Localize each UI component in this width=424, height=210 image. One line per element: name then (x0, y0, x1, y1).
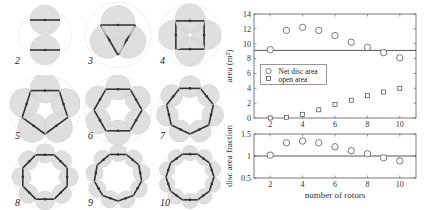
open-area-marker (349, 98, 353, 102)
open-area-marker (317, 108, 321, 112)
open-area-marker (398, 86, 402, 90)
open-area-marker (333, 103, 337, 107)
open-area-marker (268, 116, 272, 120)
rotor-disc-icon (189, 120, 211, 142)
area-chart-svg: 24681002468101214area (m²)Net disc areao… (222, 0, 424, 130)
open-area-marker (365, 94, 369, 98)
y-tick-label: 1.5 (241, 130, 251, 139)
disc-fraction-chart-svg: 2468100.511.5disc area fractionnumber of… (222, 126, 424, 210)
disc-area-marker (332, 32, 338, 38)
area-chart: 24681002468101214area (m²)Net disc areao… (222, 0, 424, 130)
disc-area-marker (316, 140, 322, 146)
y-tick-label: 6 (247, 69, 251, 78)
rotor-disc-icon (52, 151, 71, 170)
y-tick-label: 0.5 (241, 174, 251, 183)
rotor-disc-icon (179, 76, 201, 98)
y-tick-label: 14 (243, 10, 251, 19)
rotor-diagram-2 (10, 0, 80, 70)
rotor-disc-icon (52, 184, 71, 203)
open-area-marker (301, 112, 305, 116)
y-axis-label: disc area fraction (224, 125, 234, 187)
x-tick-label: 6 (333, 180, 337, 189)
y-tick-label: 12 (243, 25, 251, 34)
y-tick-label: 8 (247, 54, 251, 63)
disc-area-marker (364, 44, 370, 50)
rotor-disc-icon (43, 113, 73, 143)
legend: Net disc areaopen area (260, 65, 326, 85)
disc-area-marker (348, 39, 354, 45)
y-tick-label: 10 (243, 40, 251, 49)
rotor-diagram-5 (10, 75, 80, 145)
rotor-disc-icon (12, 167, 31, 186)
rotor-count-label: 4 (160, 55, 165, 66)
rotor-count-label: 5 (15, 130, 20, 141)
rotor-disc-icon (59, 167, 78, 186)
disc-area-marker (283, 140, 289, 146)
rotor-disc-icon (30, 75, 60, 103)
disc-area-marker (267, 46, 273, 52)
rotor-count-label: 7 (160, 130, 165, 141)
disc-area-marker (364, 151, 370, 157)
legend-open-area: open area (278, 75, 308, 84)
disc-area-marker (380, 155, 386, 161)
rotor-disc-icon (101, 5, 135, 39)
disc-area-marker (332, 144, 338, 150)
rotor-count-label: 6 (88, 130, 93, 141)
disc-area-marker (397, 55, 403, 61)
x-tick-label: 4 (301, 180, 305, 189)
x-tick-label: 8 (365, 180, 369, 189)
open-area-marker (382, 90, 386, 94)
x-tick-label: 10 (396, 180, 404, 189)
disc-area-marker (299, 24, 305, 30)
rotor-diagram-8 (10, 142, 80, 210)
rotor-count-label: 10 (160, 197, 170, 208)
rotor-disc-icon (175, 4, 205, 34)
rotor-disc-icon (35, 144, 54, 163)
y-tick-label: 1 (247, 152, 251, 161)
rotor-disc-icon (19, 184, 38, 203)
x-axis-label: number of rotors (305, 190, 366, 200)
rotor-count-label: 2 (15, 55, 20, 66)
open-area-marker (284, 115, 288, 119)
disc-area-marker (267, 152, 273, 158)
rotor-disc-icon (19, 151, 38, 170)
rotor-diagram-9 (83, 142, 153, 210)
disc-area-marker (283, 27, 289, 33)
disc-fraction-chart: 2468100.511.5disc area fractionnumber of… (222, 126, 424, 210)
disc-area-marker (316, 27, 322, 33)
rotor-diagram-6 (83, 75, 153, 145)
rotor-count-label: 3 (88, 55, 93, 66)
rotor-disc-icon (35, 191, 54, 210)
y-tick-label: 4 (247, 84, 251, 93)
disc-area-marker (348, 148, 354, 154)
disc-area-marker (380, 49, 386, 55)
disc-area-marker (397, 158, 403, 164)
y-tick-label: 2 (247, 99, 251, 108)
rotor-disc-icon (105, 75, 130, 100)
x-tick-label: 2 (268, 180, 272, 189)
rotor-diagram-4 (155, 0, 225, 70)
y-axis-label: area (m²) (224, 50, 234, 83)
disc-area-marker (299, 138, 305, 144)
rotor-count-label: 8 (15, 197, 20, 208)
rotor-diagram-7 (155, 75, 225, 145)
rotor-count-label: 9 (88, 197, 93, 208)
rotor-diagram-3 (83, 0, 153, 70)
y-tick-label: 0 (247, 114, 251, 123)
